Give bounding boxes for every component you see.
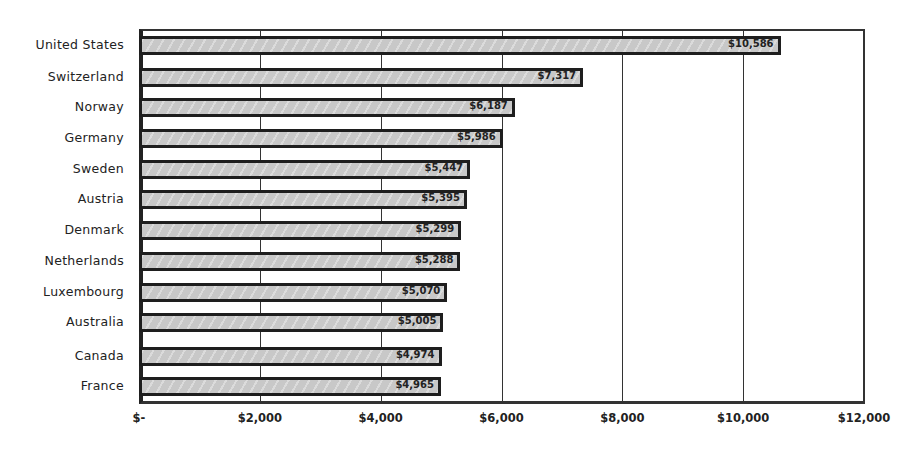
- x-tick-label: $8,000: [600, 411, 644, 425]
- bar: $10,586: [139, 36, 781, 55]
- bar-value-label: $5,447: [424, 162, 463, 173]
- category-label: Germany: [64, 130, 124, 145]
- bar-value-label: $5,005: [398, 315, 437, 326]
- x-tick-label: $10,000: [717, 411, 769, 425]
- category-label: Luxembourg: [43, 284, 124, 299]
- category-label: Canada: [75, 348, 124, 363]
- bar: $5,005: [139, 313, 443, 332]
- bar: $5,299: [139, 221, 461, 240]
- bar-value-label: $5,986: [457, 131, 496, 142]
- category-label: France: [81, 378, 124, 393]
- gridline: [622, 29, 623, 404]
- bar: $5,395: [139, 190, 467, 209]
- bar-value-label: $6,187: [469, 100, 508, 111]
- category-label: Netherlands: [45, 253, 125, 268]
- bar: $4,974: [139, 347, 442, 366]
- bar: $5,070: [139, 283, 447, 302]
- bar: $6,187: [139, 98, 515, 117]
- category-label: Norway: [75, 99, 124, 114]
- bar-value-label: $5,070: [402, 285, 441, 296]
- bar: $7,317: [139, 68, 583, 87]
- bar: $4,965: [139, 377, 441, 396]
- bar-chart: $10,586$7,317$6,187$5,986$5,447$5,395$5,…: [0, 0, 906, 451]
- category-label: Denmark: [64, 222, 124, 237]
- bar-value-label: $10,586: [728, 38, 774, 49]
- bar: $5,288: [139, 252, 460, 271]
- x-tick-label: $4,000: [358, 411, 402, 425]
- category-label: Australia: [66, 314, 124, 329]
- bar-value-label: $7,317: [537, 70, 576, 81]
- x-tick-label: $6,000: [479, 411, 523, 425]
- x-tick-label: $2,000: [238, 411, 282, 425]
- gridline: [743, 29, 744, 404]
- bar-value-label: $5,288: [415, 254, 454, 265]
- category-label: Switzerland: [48, 69, 124, 84]
- category-label: United States: [35, 37, 124, 52]
- category-label: Austria: [78, 191, 124, 206]
- x-tick-label: $12,000: [838, 411, 890, 425]
- x-tick-label: $-: [133, 411, 146, 425]
- bar: $5,986: [139, 129, 503, 148]
- bar-value-label: $4,965: [395, 379, 434, 390]
- bar: $5,447: [139, 160, 470, 179]
- bar-value-label: $5,299: [416, 223, 455, 234]
- bar-value-label: $4,974: [396, 349, 435, 360]
- category-label: Sweden: [73, 161, 124, 176]
- bar-value-label: $5,395: [421, 192, 460, 203]
